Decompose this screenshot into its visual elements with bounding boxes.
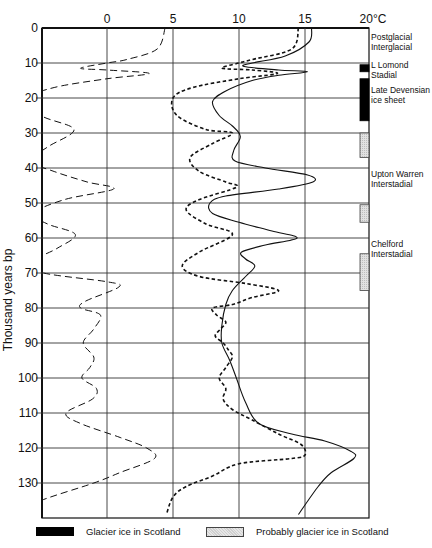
period-label: Postglacial xyxy=(371,32,412,42)
y-tick-label: 30 xyxy=(25,126,39,140)
x-tick-label: 15 xyxy=(298,12,312,26)
y-tick-label: 90 xyxy=(25,336,39,350)
ice-bars xyxy=(360,65,369,291)
y-tick-label: 60 xyxy=(25,231,39,245)
probable-swatch xyxy=(206,527,244,537)
temperature-chart: 05101520°C010203040506070809010011012013… xyxy=(0,0,432,548)
period-label: Chelford xyxy=(371,239,403,249)
y-tick-label: 100 xyxy=(18,371,38,385)
y-tick-label: 40 xyxy=(25,161,39,175)
probable-ice-bar xyxy=(360,254,369,291)
glacier-swatch xyxy=(36,527,74,536)
x-tick-label: 0 xyxy=(104,12,111,26)
probable-ice-bar xyxy=(360,133,369,158)
period-label: Interglacial xyxy=(371,42,412,52)
period-label: Upton Warren xyxy=(371,169,424,179)
y-tick-label: 50 xyxy=(25,196,39,210)
legend-label-glacier: Glacier ice in Scotland xyxy=(86,526,181,537)
y-tick-label: 120 xyxy=(18,441,38,455)
legend: Glacier ice in Scotland Probably glacier… xyxy=(0,526,432,542)
probable-ice-bar xyxy=(360,205,369,223)
solid-curve xyxy=(209,28,356,515)
legend-item-glacier: Glacier ice in Scotland xyxy=(36,526,181,537)
y-tick-label: 110 xyxy=(19,406,38,420)
legend-item-probable: Probably glacier ice in Scotland xyxy=(206,526,389,537)
period-label: Late Devensian xyxy=(371,85,430,95)
period-label: Interstadial xyxy=(371,249,413,259)
x-tick-label: 10 xyxy=(232,12,246,26)
grid xyxy=(36,28,369,518)
x-tick-label: 20°C xyxy=(360,12,387,26)
y-tick-label: 80 xyxy=(25,301,39,315)
y-tick-label: 0 xyxy=(31,21,38,35)
y-axis-title: Thousand years bp xyxy=(1,248,15,351)
glacier-ice-bar xyxy=(360,65,369,72)
y-tick-label: 70 xyxy=(25,266,39,280)
period-label: L Lomond xyxy=(371,60,409,70)
period-label: Stadial xyxy=(371,70,397,80)
glacier-ice-bar xyxy=(360,79,369,121)
short-dash-curve xyxy=(166,28,305,515)
y-tick-label: 10 xyxy=(25,56,39,70)
legend-label-probable: Probably glacier ice in Scotland xyxy=(256,526,389,537)
y-tick-label: 20 xyxy=(25,91,39,105)
y-tick-label: 130 xyxy=(18,476,38,490)
period-label: Interstadial xyxy=(371,179,413,189)
period-label: ice sheet xyxy=(371,95,406,105)
x-tick-label: 5 xyxy=(170,12,177,26)
